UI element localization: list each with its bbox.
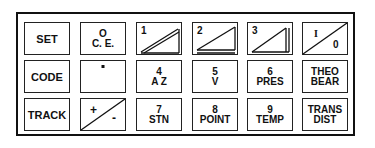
key-9-number: 9	[267, 105, 273, 115]
key-2-label: 2	[197, 26, 203, 36]
trans-label: TRANS	[308, 105, 342, 115]
ce-top-label: O	[99, 29, 107, 39]
key-8-label: POINT	[200, 115, 231, 125]
key-3[interactable]: 3	[247, 22, 293, 55]
key-1[interactable]: 1	[136, 22, 182, 55]
key-5-number: 5	[212, 67, 218, 77]
track-label: TRACK	[28, 110, 67, 120]
dist-label: DIST	[314, 115, 337, 125]
key-7-label: STN	[149, 115, 169, 125]
diagonal-divider-icon	[303, 23, 349, 56]
bear-label: BEAR	[311, 77, 339, 87]
key-6[interactable]: 6 PRES	[247, 60, 293, 93]
set-label: SET	[36, 34, 57, 44]
plus-label: +	[90, 105, 97, 115]
set-key[interactable]: SET	[24, 22, 70, 55]
key-4-number: 4	[156, 67, 162, 77]
key-7-number: 7	[156, 105, 162, 115]
plus-minus-key[interactable]: + -	[80, 98, 126, 131]
decimal-point-icon	[102, 65, 105, 68]
on-label: I	[314, 29, 318, 39]
key-8[interactable]: 8 POINT	[192, 98, 238, 131]
key-9[interactable]: 9 TEMP	[247, 98, 293, 131]
theo-label: THEO	[311, 67, 339, 77]
clear-entry-key[interactable]: O C. E.	[80, 22, 126, 55]
key-9-label: TEMP	[256, 115, 284, 125]
key-3-label: 3	[252, 26, 258, 36]
minus-label: -	[112, 113, 116, 123]
track-key[interactable]: TRACK	[24, 98, 70, 131]
key-4-label: A Z	[151, 77, 167, 87]
code-key[interactable]: CODE	[24, 60, 70, 93]
key-6-label: PRES	[256, 77, 283, 87]
key-5-label: V	[212, 77, 219, 87]
key-2[interactable]: 2	[192, 22, 238, 55]
trans-dist-key[interactable]: TRANS DIST	[302, 98, 348, 131]
key-1-label: 1	[141, 26, 147, 36]
theo-bear-key[interactable]: THEO BEAR	[302, 60, 348, 93]
diagonal-divider-icon	[81, 99, 127, 132]
key-8-number: 8	[212, 105, 218, 115]
key-7[interactable]: 7 STN	[136, 98, 182, 131]
off-label: 0	[333, 40, 339, 50]
key-5[interactable]: 5 V	[192, 60, 238, 93]
code-label: CODE	[31, 72, 63, 82]
key-6-number: 6	[267, 67, 273, 77]
ce-bottom-label: C. E.	[92, 39, 114, 49]
decimal-key[interactable]	[80, 60, 126, 93]
on-off-key[interactable]: I 0	[302, 22, 348, 55]
key-4[interactable]: 4 A Z	[136, 60, 182, 93]
